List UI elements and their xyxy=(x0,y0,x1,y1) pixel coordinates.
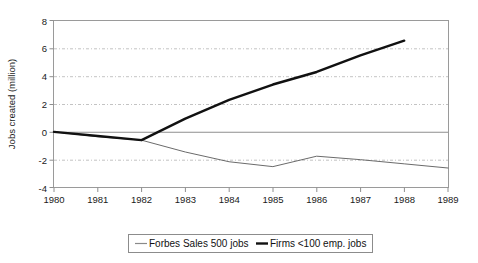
y-tick-label: 4 xyxy=(42,71,47,82)
x-tick-label: 1985 xyxy=(262,194,283,205)
y-tick-label: 0 xyxy=(42,127,47,138)
x-tick-label: 1982 xyxy=(131,194,152,205)
x-tick-label: 1988 xyxy=(394,194,415,205)
y-tick-label: -2 xyxy=(39,155,47,166)
chart-container: Jobs created (million) 8 6 4 2 0 -2 -4 xyxy=(0,0,478,263)
x-tick-label: 1987 xyxy=(350,194,371,205)
x-tick-label: 1986 xyxy=(306,194,327,205)
chart-background xyxy=(0,0,478,263)
legend-label-firms: Firms <100 emp. jobs xyxy=(270,238,366,249)
x-tick-label: 1981 xyxy=(87,194,108,205)
y-tick-label: 2 xyxy=(42,99,47,110)
x-tick-label: 1980 xyxy=(43,194,64,205)
x-tick-label: 1983 xyxy=(175,194,196,205)
x-tick-label: 1984 xyxy=(219,194,240,205)
y-tick-label: 8 xyxy=(42,16,47,27)
x-tick-label: 1989 xyxy=(437,194,458,205)
legend: Forbes Sales 500 jobs Firms <100 emp. jo… xyxy=(129,235,373,253)
legend-label-forbes: Forbes Sales 500 jobs xyxy=(149,238,249,249)
y-axis-title: Jobs created (million) xyxy=(6,59,17,149)
jobs-created-line-chart: Jobs created (million) 8 6 4 2 0 -2 -4 xyxy=(0,0,478,263)
y-tick-label: 6 xyxy=(42,43,47,54)
y-tick-label: -4 xyxy=(39,183,47,194)
